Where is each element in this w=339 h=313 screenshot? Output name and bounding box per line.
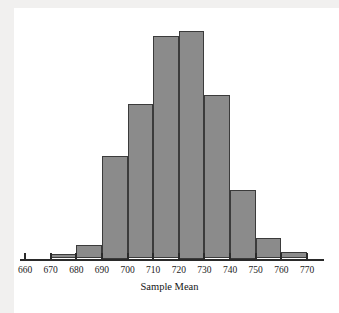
x-axis-tick [75, 253, 77, 261]
x-axis-tick [152, 253, 154, 261]
x-axis-tick-label: 710 [139, 265, 167, 275]
histogram-bar [153, 36, 179, 259]
x-axis-tick-label: 730 [190, 265, 218, 275]
histogram-bar [76, 245, 102, 259]
x-axis-tick [203, 253, 205, 261]
x-axis-tick-label: 720 [165, 265, 193, 275]
x-axis-tick [24, 253, 26, 261]
x-axis-tick-label: 670 [37, 265, 65, 275]
x-axis-tick-label: 740 [216, 265, 244, 275]
x-axis-tick [229, 253, 231, 261]
histogram-bar [281, 252, 307, 259]
x-axis-tick-label: 660 [11, 265, 39, 275]
x-axis-tick [280, 253, 282, 261]
x-axis-tick [306, 253, 308, 261]
x-axis-tick-label: 680 [62, 265, 90, 275]
histogram-bar [102, 156, 128, 258]
x-axis-tick-label: 690 [88, 265, 116, 275]
histogram-bar [51, 254, 77, 259]
x-axis-label: Sample Mean [0, 281, 339, 292]
histogram-bar [256, 238, 282, 258]
x-axis-tick [178, 253, 180, 261]
x-axis-tick-label: 760 [267, 265, 295, 275]
x-axis-tick [255, 253, 257, 261]
histogram-plot: Sample Mean 6606706806907007107207307407… [0, 0, 339, 313]
x-axis-tick-label: 700 [114, 265, 142, 275]
x-axis-line [20, 259, 324, 261]
x-axis-tick [127, 253, 129, 261]
histogram-bar [204, 95, 230, 259]
x-axis-tick [50, 253, 52, 261]
histogram-bar [128, 104, 154, 259]
x-axis-tick-label: 770 [293, 265, 321, 275]
histogram-bar [179, 31, 205, 259]
figure-page: Sample Mean 6606706806907007107207307407… [0, 0, 339, 313]
x-axis-tick-label: 750 [242, 265, 270, 275]
histogram-bar [230, 190, 256, 258]
x-axis-tick [101, 253, 103, 261]
